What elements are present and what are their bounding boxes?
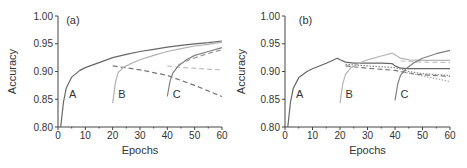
x-tick-label: 20 xyxy=(107,130,119,141)
panel-b-chart: 01020304050600.800.850.900.951.00EpochsA… xyxy=(235,11,456,157)
annotations: (b)ABC xyxy=(296,14,409,100)
series-group xyxy=(61,41,222,127)
series-line-a-drift xyxy=(113,66,222,97)
annotations: (a)ABC xyxy=(66,14,181,100)
x-axis-label: Epochs xyxy=(349,144,386,156)
y-tick-label: 0.95 xyxy=(261,38,281,49)
annotation-label: (a) xyxy=(66,14,79,26)
annotation-label: B xyxy=(118,88,125,100)
y-axis-label: Accuracy xyxy=(235,48,247,94)
x-tick-label: 0 xyxy=(282,130,288,141)
series-line-c-ref xyxy=(178,50,222,65)
y-tick-label: 1.00 xyxy=(34,11,54,22)
axes: 01020304050600.800.850.900.951.00EpochsA… xyxy=(235,11,456,157)
x-tick-label: 60 xyxy=(216,130,228,141)
annotation-label: C xyxy=(173,88,181,100)
y-tick-label: 0.90 xyxy=(261,66,281,77)
y-axis-label: Accuracy xyxy=(6,48,18,94)
y-tick-label: 0.85 xyxy=(34,94,54,105)
series-line-a-dotted xyxy=(346,64,451,75)
y-tick-label: 0.85 xyxy=(261,94,281,105)
series-line-a xyxy=(288,58,450,127)
y-tick-label: 0.80 xyxy=(34,122,54,133)
x-tick-label: 10 xyxy=(80,130,92,141)
y-tick-label: 1.00 xyxy=(261,11,281,22)
annotation-label: A xyxy=(69,88,77,100)
x-tick-label: 50 xyxy=(417,130,429,141)
x-tick-label: 50 xyxy=(189,130,201,141)
series-line-b-dashed xyxy=(401,61,451,63)
axes: 01020304050600.800.850.900.951.00EpochsA… xyxy=(6,11,228,157)
annotation-label: B xyxy=(346,88,353,100)
y-tick-label: 0.90 xyxy=(34,66,54,77)
x-tick-label: 30 xyxy=(362,130,374,141)
annotation-label: C xyxy=(401,88,409,100)
annotation-label: (b) xyxy=(299,14,312,26)
x-tick-label: 60 xyxy=(444,130,456,141)
x-tick-label: 20 xyxy=(334,130,346,141)
x-tick-label: 40 xyxy=(389,130,401,141)
figure: 01020304050600.800.850.900.951.00EpochsA… xyxy=(0,0,467,168)
annotation-label: A xyxy=(296,88,304,100)
x-tick-label: 10 xyxy=(307,130,319,141)
series-group xyxy=(288,50,450,127)
y-tick-label: 0.95 xyxy=(34,38,54,49)
x-axis-label: Epochs xyxy=(122,144,159,156)
x-tick-label: 40 xyxy=(162,130,174,141)
x-tick-label: 30 xyxy=(134,130,146,141)
y-tick-label: 0.80 xyxy=(261,122,281,133)
panel-a-chart: 01020304050600.800.850.900.951.00EpochsA… xyxy=(6,11,228,157)
x-tick-label: 0 xyxy=(55,130,61,141)
